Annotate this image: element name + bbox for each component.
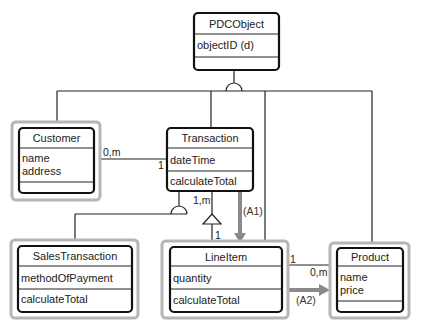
class-pdcobject[interactable]: PDCObject objectID (d) — [194, 13, 279, 70]
arrow-a1-label: (A1) — [243, 205, 263, 217]
class-product[interactable]: Product name price — [330, 243, 409, 318]
class-attribute: objectID (d) — [197, 39, 254, 51]
mult-lineitem-product: 1 — [290, 253, 296, 265]
mult-transaction-lineitem: 1,m — [193, 194, 211, 206]
class-salestransaction[interactable]: SalesTransaction methodOfPayment calcula… — [11, 240, 138, 318]
class-operation: calculateTotal — [170, 175, 237, 187]
class-name: Customer — [33, 132, 81, 144]
class-attribute: methodOfPayment — [21, 272, 113, 284]
class-name: SalesTransaction — [33, 250, 118, 262]
uml-diagram: 0,m 1 1,m 1 1 0,m (A1) (A2) PDCObject ob… — [0, 0, 422, 330]
arrow-a2-label: (A2) — [296, 294, 316, 306]
class-attribute: name — [340, 271, 368, 283]
class-name: Transaction — [181, 132, 238, 144]
class-lineitem[interactable]: LineItem quantity calculateTotal — [162, 241, 288, 318]
mult-product-lineitem: 0,m — [310, 266, 328, 278]
arrow-a1 — [234, 192, 246, 243]
mult-transaction-side: 1 — [158, 159, 164, 171]
class-transaction[interactable]: Transaction dateTime calculateTotal — [167, 128, 253, 191]
mult-lineitem-transaction: 1 — [215, 229, 221, 241]
class-attribute: address — [22, 165, 62, 177]
class-attribute: dateTime — [170, 154, 215, 166]
class-name: PDCObject — [209, 18, 264, 30]
class-customer[interactable]: Customer name address — [12, 122, 100, 200]
mult-customer-side: 0,m — [103, 146, 121, 158]
class-attribute: quantity — [173, 272, 212, 284]
class-name: LineItem — [205, 251, 247, 263]
class-name: Product — [351, 251, 389, 263]
class-attribute: price — [340, 284, 364, 296]
class-attribute: name — [22, 152, 50, 164]
class-operation: calculateTotal — [173, 294, 240, 306]
class-operation: calculateTotal — [21, 293, 88, 305]
